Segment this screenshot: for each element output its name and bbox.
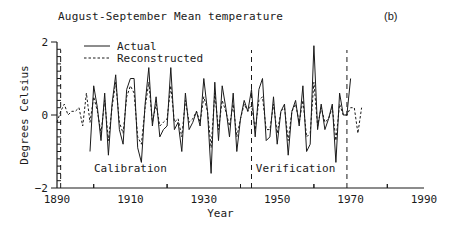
x-axis-title: Year <box>207 207 234 220</box>
legend-label: Reconstructed <box>117 52 203 65</box>
period-annotation: Calibration <box>94 162 167 175</box>
x-tick-label: 1910 <box>117 193 144 206</box>
legend: ActualReconstructed <box>84 40 203 65</box>
y-axis-title: Degrees Celsius <box>18 65 31 164</box>
chart-plot: 189019101930195019701990−202 ActualRecon… <box>0 0 460 225</box>
y-tick-label: 0 <box>41 109 48 122</box>
x-tick-label: 1970 <box>337 193 364 206</box>
x-tick-label: 1930 <box>191 193 218 206</box>
y-tick-label: 2 <box>41 36 48 49</box>
period-annotation: Verification <box>256 162 335 175</box>
x-tick-label: 1950 <box>264 193 291 206</box>
y-tick-label: −2 <box>35 182 48 195</box>
axes: 189019101930195019701990−202 <box>35 36 438 206</box>
x-tick-label: 1990 <box>411 193 438 206</box>
data-lines <box>57 46 362 174</box>
